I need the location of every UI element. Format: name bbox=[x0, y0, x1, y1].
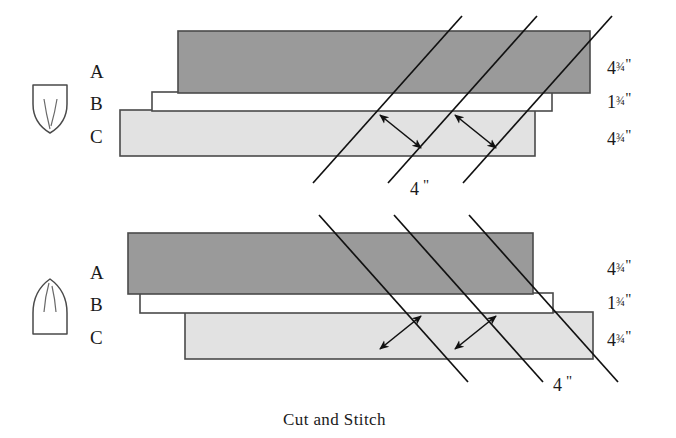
spacing-unit-bottom: " bbox=[566, 373, 572, 389]
measurement-a-bottom-unit: " bbox=[625, 257, 631, 273]
measurement-c-top-whole: 4 bbox=[607, 129, 616, 149]
measurement-b-top-whole: 1 bbox=[607, 92, 616, 112]
spacing-label-bottom: 4" bbox=[553, 374, 572, 394]
strip-a-top bbox=[178, 31, 590, 93]
strip-b-bottom bbox=[140, 293, 553, 313]
measurement-b-top-fraction: ¾ bbox=[616, 94, 625, 108]
measurement-c-bottom-unit: " bbox=[625, 328, 631, 344]
row-label-b-top: B bbox=[90, 94, 103, 113]
measurement-a-bottom: 4¾" bbox=[607, 258, 631, 278]
bottom-panel bbox=[33, 215, 618, 382]
leaf-point-down-icon bbox=[33, 85, 67, 133]
strip-c-top bbox=[120, 110, 535, 156]
measurement-c-top: 4¾" bbox=[607, 128, 631, 148]
row-label-c-bottom: C bbox=[90, 328, 103, 347]
measurement-c-top-fraction: ¾ bbox=[616, 131, 625, 145]
strip-c-bottom bbox=[185, 312, 593, 359]
strip-b-top bbox=[152, 92, 552, 111]
measurement-a-top-fraction: ¾ bbox=[616, 60, 625, 74]
spacing-value-top: 4 bbox=[410, 179, 419, 199]
figure-caption: Cut and Stitch bbox=[283, 411, 386, 428]
measurement-a-bottom-fraction: ¾ bbox=[616, 261, 625, 275]
row-label-b-bottom: B bbox=[90, 295, 103, 314]
measurement-a-top-whole: 4 bbox=[607, 58, 616, 78]
measurement-c-bottom-whole: 4 bbox=[607, 330, 616, 350]
measurement-b-top: 1¾" bbox=[607, 91, 631, 111]
figure-canvas: A B C 4¾" 1¾" 4¾" 4" A B C 4¾" 1¾" 4¾" 4… bbox=[0, 0, 676, 438]
measurement-c-top-unit: " bbox=[625, 127, 631, 143]
row-label-a-top: A bbox=[90, 62, 104, 81]
measurement-c-bottom: 4¾" bbox=[607, 329, 631, 349]
measurement-b-top-unit: " bbox=[625, 90, 631, 106]
measurement-a-top: 4¾" bbox=[607, 57, 631, 77]
leaf-point-up-icon bbox=[33, 279, 67, 334]
measurement-b-bottom-whole: 1 bbox=[607, 293, 616, 313]
measurement-a-top-unit: " bbox=[625, 56, 631, 72]
measurement-b-bottom: 1¾" bbox=[607, 292, 631, 312]
spacing-label-top: 4" bbox=[410, 178, 429, 198]
measurement-b-bottom-fraction: ¾ bbox=[616, 295, 625, 309]
row-label-a-bottom: A bbox=[90, 263, 104, 282]
strip-a-bottom bbox=[128, 233, 533, 294]
measurement-c-bottom-fraction: ¾ bbox=[616, 332, 625, 346]
row-label-c-top: C bbox=[90, 127, 103, 146]
measurement-b-bottom-unit: " bbox=[625, 291, 631, 307]
spacing-value-bottom: 4 bbox=[553, 375, 562, 395]
spacing-unit-top: " bbox=[423, 177, 429, 193]
measurement-a-bottom-whole: 4 bbox=[607, 259, 616, 279]
top-panel bbox=[33, 16, 612, 183]
